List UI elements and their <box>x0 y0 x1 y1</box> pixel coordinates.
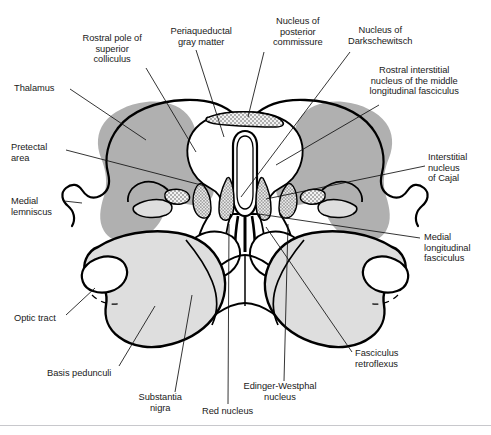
label-line: of Cajal <box>428 173 467 184</box>
label-basis-pedunculi: Basis pedunculi <box>47 368 111 379</box>
label-line: Rostral interstitial <box>370 65 459 76</box>
leader-line-optic-tract <box>66 288 95 315</box>
label-line: Medial <box>11 196 52 207</box>
label-medial-longitudinal-fasciculus: Mediallongitudinalfasciculus <box>424 232 470 264</box>
label-edinger-westphal-nucleus: Edinger-Westphalnucleus <box>244 381 317 402</box>
label-line: Nucleus of <box>273 16 323 27</box>
label-line: Fasciculus <box>355 348 398 359</box>
label-line: Pretectal <box>11 142 47 153</box>
label-line: commissure <box>273 37 323 48</box>
label-line: Medial <box>424 232 470 243</box>
label-periaqueductal-gray-matter: Periaqueductalgray matter <box>171 26 232 47</box>
label-line: nucleus <box>244 392 317 403</box>
label-line: Periaqueductal <box>171 26 232 37</box>
label-thalamus: Thalamus <box>14 83 54 94</box>
label-line: Thalamus <box>14 83 54 94</box>
label-rostral-interstitial-nucleus-mlf: Rostral interstitialnucleus of the middl… <box>370 65 459 97</box>
label-red-nucleus: Red nucleus <box>202 406 253 417</box>
label-line: Interstitial <box>428 152 467 163</box>
leader-line-medial-lemniscus <box>64 201 82 203</box>
label-line: Substantia <box>139 392 182 403</box>
label-line: nucleus <box>428 163 467 174</box>
label-line: retroflexus <box>355 359 398 370</box>
label-interstitial-nucleus-of-cajal: Interstitialnucleusof Cajal <box>428 152 467 184</box>
label-line: Nucleus of <box>348 25 412 36</box>
label-line: longitudinal fasciculus <box>370 86 459 97</box>
label-line: Optic tract <box>14 313 56 324</box>
label-substantia-nigra: Substantianigra <box>139 392 182 413</box>
label-optic-tract: Optic tract <box>14 313 56 324</box>
label-line: nucleus of the middle <box>370 76 459 87</box>
label-line: fasciculus <box>424 253 470 264</box>
label-line: Rostral pole of <box>83 33 142 44</box>
label-nucleus-posterior-commissure: Nucleus ofposteriorcommissure <box>273 16 323 48</box>
label-fasciculus-retroflexus: Fasciculusretroflexus <box>355 348 398 369</box>
leader-line-nucleus-posterior-commissure <box>248 52 264 117</box>
label-line: Edinger-Westphal <box>244 381 317 392</box>
label-line: Red nucleus <box>202 406 253 417</box>
footer-divider <box>0 425 491 426</box>
posterior-commissure-band <box>206 112 283 127</box>
label-line: gray matter <box>171 37 232 48</box>
figure-root: ThalamusRostral pole ofsuperiorcolliculu… <box>0 0 491 435</box>
label-medial-lemniscus: Mediallemniscus <box>11 196 52 217</box>
label-line: Darkschewitsch <box>348 36 412 47</box>
cerebral-aqueduct <box>233 131 257 216</box>
label-pretectal-area: Pretectalarea <box>11 142 47 163</box>
footer-caption <box>0 427 491 435</box>
label-line: area <box>11 153 47 164</box>
label-line: colliculus <box>83 54 142 65</box>
label-line: lemniscus <box>11 207 52 218</box>
label-line: posterior <box>273 27 323 38</box>
label-line: superior <box>83 44 142 55</box>
label-line: longitudinal <box>424 243 470 254</box>
label-rostral-pole-superior-colliculus: Rostral pole ofsuperiorcolliculus <box>83 33 142 65</box>
label-line: Basis pedunculi <box>47 368 111 379</box>
label-nucleus-of-darkschewitsch: Nucleus ofDarkschewitsch <box>348 25 412 46</box>
label-line: nigra <box>139 403 182 414</box>
